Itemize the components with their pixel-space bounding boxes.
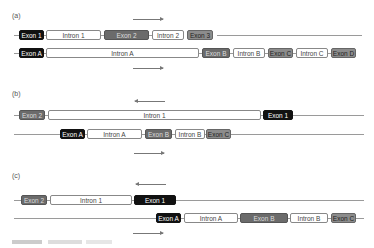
- exon-3: Exon 3: [187, 30, 213, 40]
- exon-b: Exon B: [240, 213, 288, 223]
- intron-2: Intron 2: [152, 30, 184, 40]
- intron-1: Intron 1: [48, 110, 261, 120]
- exon-c: Exon C: [331, 213, 356, 223]
- exon-b: Exon B: [202, 48, 230, 58]
- exon-2: Exon 2: [104, 30, 149, 40]
- arrow-right-icon: [133, 68, 163, 69]
- arrow-left-icon: [136, 184, 166, 185]
- intron-1: Intron 1: [50, 195, 132, 205]
- intron-a: Intron A: [184, 213, 238, 223]
- intron-b: Intron B: [233, 48, 265, 58]
- exon-1: Exon 1: [19, 30, 44, 40]
- arrow-right-icon: [133, 233, 163, 234]
- intron-c: Intron C: [296, 48, 328, 58]
- exon-a: Exon A: [60, 129, 85, 139]
- exon-a: Exon A: [156, 213, 181, 223]
- arrow-right-icon: [133, 19, 163, 20]
- figure-caption-cutoff: [12, 240, 112, 244]
- arrow-right-icon: [134, 153, 164, 154]
- intron-a: Intron A: [46, 48, 199, 58]
- exon-2: Exon 2: [19, 110, 45, 120]
- intron-a: Intron A: [87, 129, 142, 139]
- panel-c-label: (c): [12, 172, 20, 179]
- intron-b: Intron B: [290, 213, 328, 223]
- exon-2: Exon 2: [21, 195, 47, 205]
- exon-c: Exon C: [268, 48, 293, 58]
- gene-line: [217, 35, 362, 36]
- exon-1: Exon 1: [134, 195, 176, 205]
- exon-b: Exon B: [145, 129, 172, 139]
- exon-1: Exon 1: [263, 110, 293, 120]
- exon-c: Exon C: [206, 129, 231, 139]
- panel-a-label: (a): [12, 12, 21, 19]
- exon-a: Exon A: [19, 48, 44, 58]
- arrow-left-icon: [135, 101, 165, 102]
- intron-1: Intron 1: [46, 30, 101, 40]
- panel-b-label: (b): [12, 90, 21, 97]
- intron-b: Intron B: [175, 129, 205, 139]
- exon-d: Exon D: [331, 48, 356, 58]
